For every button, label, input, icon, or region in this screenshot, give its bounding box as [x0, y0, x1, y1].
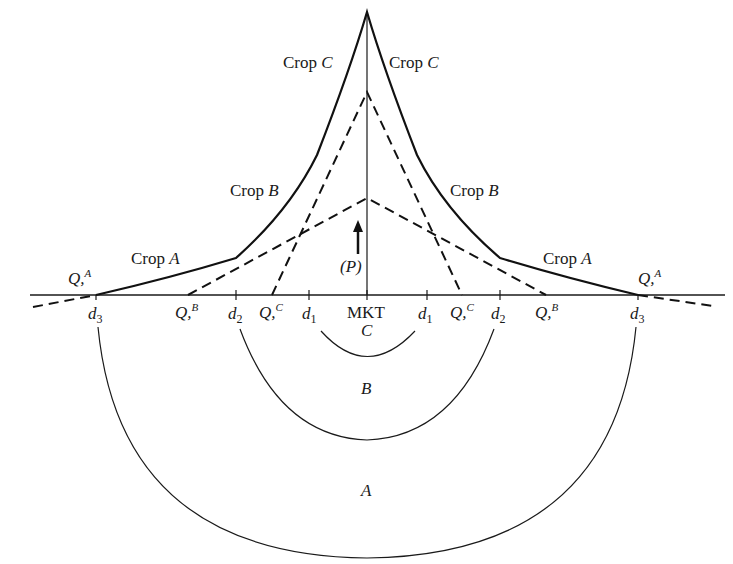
crop-a-rent-extension-left — [33, 295, 96, 307]
q-c-left-label: Q,C — [259, 302, 283, 321]
d3-left-label: d3 — [88, 305, 103, 325]
zone-a-arc — [98, 327, 636, 558]
price-label: (P) — [340, 258, 362, 275]
d1-right-label: d1 — [418, 305, 433, 325]
q-a-left-label: Q,A — [68, 268, 91, 287]
q-b-right-label: Q,B — [535, 302, 558, 321]
zone-b-label: B — [361, 380, 371, 397]
crop-b-label-right: Crop B — [450, 182, 499, 199]
market-label: MKT — [347, 304, 385, 321]
d1-left-label: d1 — [302, 305, 317, 325]
q-c-right-label: Q,C — [450, 302, 474, 321]
d2-right-label: d2 — [491, 305, 506, 325]
crop-c-label-left: Crop C — [283, 54, 333, 71]
von-thunen-diagram: Crop C Crop C Crop B Crop B Crop A Crop … — [0, 0, 733, 564]
crop-a-label-left: Crop A — [131, 250, 180, 267]
q-b-left-label: Q,B — [175, 302, 198, 321]
crop-c-label-right: Crop C — [389, 54, 439, 71]
zone-c-label: C — [361, 322, 372, 339]
d3-right-label: d3 — [630, 305, 645, 325]
zone-a-label: A — [361, 482, 371, 499]
q-a-right-label: Q,A — [638, 268, 661, 287]
crop-b-label-left: Crop B — [230, 182, 279, 199]
price-arrow-head — [353, 220, 363, 232]
diagram-graphics — [0, 0, 733, 564]
crop-a-rent-extension-right — [638, 295, 713, 306]
d2-left-label: d2 — [228, 305, 243, 325]
crop-a-label-right: Crop A — [543, 250, 592, 267]
